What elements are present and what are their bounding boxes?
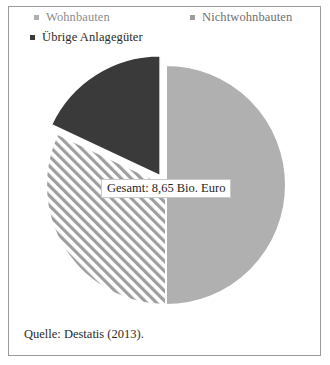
legend-item-uebrige-anlagegueter[interactable]: Übrige Anlagegüter (30, 30, 143, 45)
legend-square-marker-icon (190, 15, 195, 20)
source-note: Quelle: Destatis (2013). (24, 327, 144, 342)
legend-square-marker-icon (34, 15, 39, 20)
legend-item-nichtwohnbauten[interactable]: Nichtwohnbauten (190, 10, 292, 25)
pie-chart-figure: Wohnbauten Nichtwohnbauten Übrige Anlage… (0, 0, 330, 365)
pie-total-label: Gesamt: 8,65 Bio. Euro (101, 179, 231, 198)
legend-item-label: Nichtwohnbauten (202, 10, 292, 25)
legend-item-label: Übrige Anlagegüter (42, 30, 143, 45)
legend-item-wohnbauten[interactable]: Wohnbauten (34, 10, 110, 25)
chart-legend: Wohnbauten Nichtwohnbauten Übrige Anlage… (22, 8, 304, 52)
legend-item-label: Wohnbauten (46, 10, 110, 25)
legend-square-marker-icon (30, 35, 35, 40)
